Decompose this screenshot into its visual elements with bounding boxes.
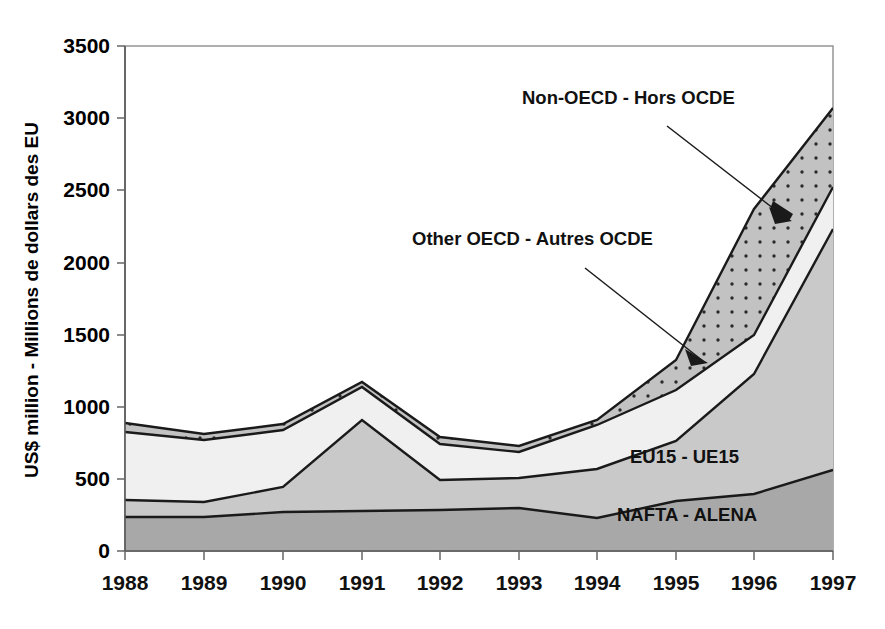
x-tick-label-1988: 1988 xyxy=(102,571,149,594)
stacked-area-chart: 0 500 1000 1500 2000 2500 3000 3500 1988… xyxy=(0,0,885,629)
x-tick-label-1995: 1995 xyxy=(653,571,700,594)
x-tick-label-1996: 1996 xyxy=(731,571,778,594)
y-tick-label-2500: 2500 xyxy=(63,178,110,201)
annotation-label-nafta: NAFTA - ALENA xyxy=(617,504,757,525)
chart-page: 0 500 1000 1500 2000 2500 3000 3500 1988… xyxy=(0,0,885,629)
y-tick-label-1500: 1500 xyxy=(63,323,110,346)
y-tick-label-2000: 2000 xyxy=(63,251,110,274)
x-tick-label-1989: 1989 xyxy=(181,571,228,594)
x-tick-label-1990: 1990 xyxy=(260,571,307,594)
x-tick-label-1991: 1991 xyxy=(339,571,386,594)
y-tick-label-0: 0 xyxy=(98,539,110,562)
x-tick-label-1993: 1993 xyxy=(496,571,543,594)
x-tick-label-1994: 1994 xyxy=(574,571,621,594)
y-tick-label-1000: 1000 xyxy=(63,395,110,418)
y-tick-label-500: 500 xyxy=(75,467,110,490)
annotation-label-eu15: EU15 - UE15 xyxy=(630,446,739,467)
y-axis-title: US$ million - Millions de dollars des EU xyxy=(21,122,42,478)
y-tick-label-3500: 3500 xyxy=(63,34,110,57)
annotation-label-non-oecd: Non-OECD - Hors OCDE xyxy=(522,87,735,108)
annotation-label-other-oecd: Other OECD - Autres OCDE xyxy=(412,228,653,249)
y-tick-label-3000: 3000 xyxy=(63,106,110,129)
x-tick-label-1997: 1997 xyxy=(810,571,857,594)
x-tick-label-1992: 1992 xyxy=(417,571,464,594)
